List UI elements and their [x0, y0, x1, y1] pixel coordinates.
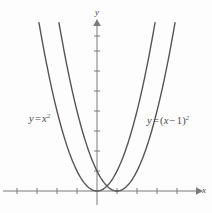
equation-label-y-equals-x-squared: y=x2	[29, 114, 50, 125]
x-axis-label: x	[202, 186, 206, 195]
y-axis-arrowhead	[93, 19, 101, 26]
equation-label-y-equals-x-minus-1-squared: y=(x−1)2	[147, 116, 189, 127]
curves-group	[39, 23, 175, 191]
curve-y-equals-x-minus-1-squared	[59, 23, 175, 191]
label-right-operator: =	[152, 115, 160, 126]
label-right-base: x	[164, 115, 169, 126]
label-right-exponent: 2	[186, 114, 189, 121]
parabola-figure: y x y=x2 y=(x−1)2	[0, 0, 212, 213]
label-left-operator: =	[34, 113, 42, 124]
label-right-minus: −	[169, 115, 177, 126]
plot-canvas	[0, 0, 212, 213]
axes-group	[3, 19, 203, 205]
label-left-exponent: 2	[47, 112, 50, 119]
y-axis-label: y	[95, 8, 99, 17]
